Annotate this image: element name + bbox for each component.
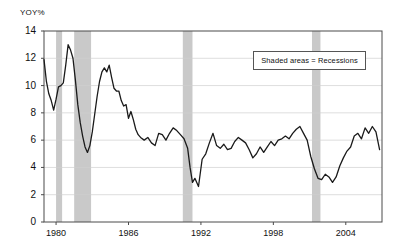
y-tick-label-6: 6: [16, 135, 36, 145]
chart-plot-area: [0, 0, 400, 245]
y-tick-label-8: 8: [16, 108, 36, 118]
gridlines-layer: [44, 58, 382, 194]
y-tick-label-14: 14: [16, 26, 36, 36]
x-tick-label-2004: 2004: [326, 228, 366, 238]
y-tick-label-0: 0: [16, 217, 36, 227]
chart-container: YOY% 02468101214 19801986199219982004 Sh…: [0, 0, 400, 245]
recession-legend-label: Shaded areas = Recessions: [261, 56, 358, 65]
recession-band-2: [183, 31, 193, 222]
x-tick-label-1998: 1998: [253, 228, 293, 238]
y-tick-label-10: 10: [16, 81, 36, 91]
recession-legend-box: Shaded areas = Recessions: [253, 51, 366, 70]
y-tick-label-12: 12: [16, 53, 36, 63]
y-tick-label-2: 2: [16, 190, 36, 200]
y-axis-title: YOY%: [20, 8, 45, 17]
x-tick-label-1992: 1992: [181, 228, 221, 238]
x-tick-label-1980: 1980: [36, 228, 76, 238]
recession-band-1: [74, 31, 91, 222]
x-tick-label-1986: 1986: [109, 228, 149, 238]
y-tick-label-4: 4: [16, 162, 36, 172]
recession-band-0: [56, 31, 62, 222]
